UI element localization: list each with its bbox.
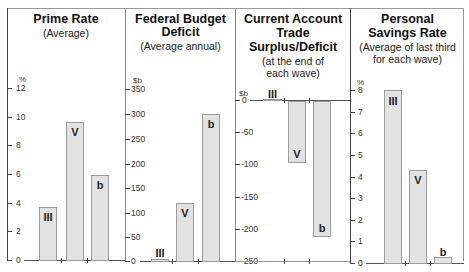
y-tick-label: -50 bbox=[241, 128, 253, 137]
y-tick-label: 50 bbox=[131, 233, 140, 242]
x-tick bbox=[87, 258, 88, 263]
y-tick-label: 4 bbox=[358, 173, 363, 182]
y-tick-label: 0 bbox=[16, 256, 21, 265]
chart-title-line2: Deficit bbox=[126, 25, 235, 39]
chart-subtitle: (Average) bbox=[7, 27, 125, 40]
y-tick bbox=[125, 114, 130, 115]
bar-label: V bbox=[289, 148, 305, 160]
y-tick bbox=[350, 198, 355, 199]
y-tick-label: 250 bbox=[131, 135, 145, 144]
y-tick bbox=[350, 112, 355, 113]
x-tick bbox=[309, 98, 310, 103]
bar-wave-b: b bbox=[202, 114, 220, 262]
chart-title: Prime Rate bbox=[7, 12, 125, 26]
y-tick bbox=[7, 260, 12, 261]
x-tick bbox=[61, 258, 62, 263]
chart-subtitle-line1: (at the end of bbox=[236, 55, 350, 68]
y-tick-label: -200 bbox=[241, 225, 258, 234]
y-tick bbox=[235, 100, 240, 101]
y-tick-label: 10 bbox=[16, 113, 25, 122]
chart-title-line3: Surplus/Deficit bbox=[236, 40, 350, 54]
y-tick bbox=[350, 220, 355, 221]
y-tick bbox=[235, 197, 240, 198]
y-tick-label: 6 bbox=[16, 170, 21, 179]
y-tick bbox=[350, 90, 355, 91]
y-tick-label: 6 bbox=[358, 129, 363, 138]
bar-label: III bbox=[152, 247, 168, 259]
y-tick-label: 5 bbox=[358, 151, 363, 160]
y-tick-label: 7 bbox=[358, 108, 363, 117]
x-tick bbox=[172, 259, 173, 264]
y-tick bbox=[235, 229, 240, 230]
bar-label: III bbox=[385, 95, 401, 107]
y-tick-label: 3 bbox=[358, 194, 363, 203]
y-axis bbox=[7, 8, 8, 261]
y-tick bbox=[7, 203, 12, 204]
x-tick bbox=[430, 261, 431, 266]
y-tick bbox=[125, 188, 130, 189]
y-tick-label: 200 bbox=[131, 160, 145, 169]
bar-label: V bbox=[67, 126, 83, 138]
y-tick-label: -100 bbox=[241, 160, 258, 169]
y-tick-label: 2 bbox=[358, 216, 363, 225]
chart-title-line1: Personal bbox=[351, 12, 464, 26]
y-tick bbox=[7, 145, 12, 146]
y-tick bbox=[125, 89, 130, 90]
bar-label: III bbox=[40, 211, 56, 223]
bar-wave-b: b bbox=[313, 101, 331, 237]
y-tick bbox=[235, 132, 240, 133]
bar-wave-v: V bbox=[409, 170, 427, 264]
bar-label: b bbox=[92, 179, 108, 191]
bar-label: III bbox=[264, 88, 281, 100]
y-tick-label: 0 bbox=[358, 259, 363, 268]
y-tick bbox=[7, 174, 12, 175]
x-tick bbox=[284, 98, 285, 103]
chart-subtitle: (Average annual) bbox=[126, 40, 235, 53]
y-tick bbox=[7, 231, 12, 232]
y-tick bbox=[125, 139, 130, 140]
y-tick-label: 8 bbox=[358, 86, 363, 95]
x-tick bbox=[284, 259, 285, 264]
y-tick bbox=[125, 237, 130, 238]
chart-subtitle-line2: each wave) bbox=[236, 67, 350, 80]
bar-label: b bbox=[203, 118, 219, 130]
bar-wave-iii: III bbox=[263, 99, 282, 101]
y-tick bbox=[125, 164, 130, 165]
y-tick-label: 1 bbox=[358, 237, 363, 246]
bar-wave-iii: III bbox=[151, 259, 169, 262]
y-tick-label: 2 bbox=[16, 227, 21, 236]
y-tick bbox=[125, 261, 130, 262]
y-tick-label: 350 bbox=[131, 85, 145, 94]
y-tick bbox=[235, 164, 240, 165]
y-tick-label: 0 bbox=[242, 96, 247, 105]
bar-label: V bbox=[177, 207, 193, 219]
chart-title-line1: Federal Budget bbox=[126, 12, 235, 26]
chart-subtitle-line2: for each wave) bbox=[351, 53, 464, 66]
x-axis-bottom bbox=[236, 261, 350, 262]
x-tick bbox=[405, 261, 406, 266]
y-tick-label: -150 bbox=[241, 193, 258, 202]
x-tick bbox=[309, 259, 310, 264]
bar-wave-b: b bbox=[434, 257, 452, 264]
y-tick bbox=[350, 241, 355, 242]
bar-label: V bbox=[410, 174, 426, 186]
y-tick-label: 12 bbox=[16, 84, 25, 93]
bar-wave-iii: III bbox=[384, 90, 402, 264]
y-tick bbox=[350, 155, 355, 156]
bar-label: b bbox=[435, 246, 451, 258]
chart-title-line2: Savings Rate bbox=[351, 26, 464, 40]
chart-title-line2: Trade bbox=[236, 26, 350, 40]
y-tick bbox=[125, 213, 130, 214]
y-tick bbox=[7, 117, 12, 118]
y-tick-label: 150 bbox=[131, 184, 145, 193]
y-tick-label: 100 bbox=[131, 209, 145, 218]
x-tick bbox=[198, 259, 199, 264]
y-tick-label: 0 bbox=[131, 257, 136, 266]
bar-wave-iii: III bbox=[39, 207, 57, 261]
y-tick bbox=[350, 177, 355, 178]
y-tick-label: 4 bbox=[16, 199, 21, 208]
chart-title-line1: Current Account bbox=[236, 12, 350, 26]
chart-subtitle-line1: (Average of last third bbox=[351, 41, 464, 54]
bar-wave-b: b bbox=[91, 175, 109, 261]
y-tick bbox=[350, 263, 355, 264]
